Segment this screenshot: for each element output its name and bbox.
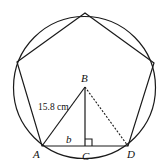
segment-BD-dashed — [85, 87, 128, 146]
label-B: B — [81, 72, 88, 84]
label-A: A — [32, 148, 40, 160]
segment-AB — [42, 87, 85, 146]
label-D: D — [126, 148, 135, 160]
pentagon-circle-diagram: B 15.8 cm b A C D — [0, 0, 164, 167]
label-C: C — [82, 150, 90, 162]
label-b: b — [66, 133, 72, 145]
label-hypotenuse: 15.8 cm — [38, 102, 69, 112]
right-angle-marker — [85, 139, 92, 146]
